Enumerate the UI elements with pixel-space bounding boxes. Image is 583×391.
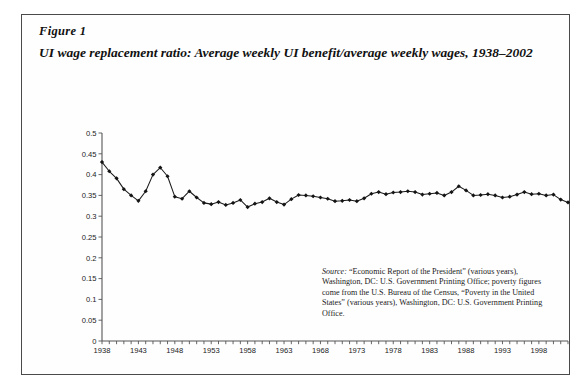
data-point (377, 190, 381, 194)
data-point (515, 192, 519, 196)
y-tick-label: 0.05 (82, 316, 97, 325)
x-tick-label: 1993 (494, 346, 511, 355)
y-tick-label: 0.3 (86, 212, 97, 221)
y-tick-label: 0.1 (86, 295, 97, 304)
data-point (267, 196, 271, 200)
data-point (493, 193, 497, 197)
y-tick-label: 0.45 (82, 150, 97, 159)
data-point (260, 200, 264, 204)
x-tick-label: 1978 (385, 346, 402, 355)
x-tick-label: 1983 (421, 346, 438, 355)
data-point (216, 200, 220, 204)
figure-title: UI wage replacement ratio: Average weekl… (39, 44, 549, 61)
data-point (296, 193, 300, 197)
line-chart: 00.050.10.150.20.250.30.350.40.450.51938… (69, 127, 574, 359)
data-point (442, 193, 446, 197)
figure-label: Figure 1 (39, 24, 86, 39)
data-point (311, 194, 315, 198)
data-point (224, 203, 228, 207)
data-point (304, 193, 308, 197)
data-point (253, 202, 257, 206)
x-tick-label: 1988 (458, 346, 475, 355)
data-point (566, 200, 570, 204)
data-point (209, 202, 213, 206)
x-tick-label: 1938 (94, 346, 111, 355)
data-point (420, 192, 424, 196)
data-point (486, 192, 490, 196)
data-point (173, 195, 177, 199)
x-tick-label: 1973 (348, 346, 365, 355)
figure-frame: Figure 1 UI wage replacement ratio: Aver… (21, 14, 570, 375)
y-tick-label: 0.5 (86, 129, 97, 138)
y-tick-label: 0.2 (86, 254, 97, 263)
data-point (398, 190, 402, 194)
x-tick-label: 1958 (239, 346, 256, 355)
data-point (406, 189, 410, 193)
data-point (355, 199, 359, 203)
data-point (275, 200, 279, 204)
data-point (522, 190, 526, 194)
source-note-text: “Economic Report of the President” (vari… (322, 267, 542, 318)
x-tick-label: 1968 (312, 346, 329, 355)
x-tick-label: 1963 (276, 346, 293, 355)
x-tick-label: 1998 (530, 346, 547, 355)
data-point (231, 201, 235, 205)
y-tick-label: 0 (92, 337, 96, 346)
data-point (500, 195, 504, 199)
y-tick-label: 0.4 (86, 170, 97, 179)
data-point (544, 193, 548, 197)
data-point (326, 197, 330, 201)
y-tick-label: 0.15 (82, 274, 97, 283)
data-point (537, 192, 541, 196)
data-point (428, 192, 432, 196)
source-note-lead: Source: (322, 267, 347, 276)
data-point (391, 190, 395, 194)
data-point (529, 192, 533, 196)
data-point (340, 199, 344, 203)
y-tick-label: 0.25 (82, 233, 97, 242)
x-tick-label: 1948 (166, 346, 183, 355)
chart-plot-area: 00.050.10.150.20.250.30.350.40.450.51938… (69, 127, 574, 359)
x-tick-label: 1953 (203, 346, 220, 355)
data-point (347, 198, 351, 202)
data-point (413, 190, 417, 194)
data-point (435, 191, 439, 195)
source-note: Source: “Economic Report of the Presiden… (322, 267, 554, 319)
y-tick-label: 0.35 (82, 191, 97, 200)
data-point (479, 193, 483, 197)
data-point (384, 192, 388, 196)
data-point (508, 195, 512, 199)
data-point (333, 199, 337, 203)
x-tick-label: 1943 (130, 346, 147, 355)
data-point (318, 195, 322, 199)
